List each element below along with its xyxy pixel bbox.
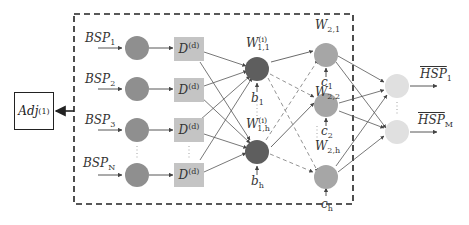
input-label-1: BSP1 [85, 32, 115, 47]
delay-label-1: D(d) [174, 42, 204, 55]
input-node-2 [125, 77, 149, 101]
hidden1-to-hidden2-edges [271, 51, 314, 147]
delay-label-3: D(d) [174, 123, 204, 136]
node-to-delay-arrows [149, 48, 173, 175]
hidden1-to-hidden2-dashed-edges [266, 60, 318, 172]
delay-boxes [174, 37, 204, 187]
hidden2-weight-label-1: W2,1 [315, 19, 340, 34]
input-label-2: BSP2 [85, 73, 115, 88]
input-label-n: BSPN [83, 157, 115, 172]
hidden1-node-h [245, 140, 269, 164]
output-node-1 [385, 74, 409, 98]
hidden1-bias-label-1: b1 [251, 92, 264, 107]
input-node-3 [125, 118, 149, 142]
input-label-3: BSP3 [85, 114, 115, 129]
hidden2-node-1 [314, 43, 338, 67]
adj-sup: (1) [38, 107, 49, 116]
delay-to-hidden1-edges [200, 52, 252, 172]
input-node-n [125, 163, 149, 187]
input-node-1 [125, 36, 149, 60]
adjacency-box: Adj(1) [14, 92, 54, 130]
hidden2-node-h [314, 165, 338, 189]
delay-label-2: D(d) [174, 83, 204, 96]
neural-network-diagram [0, 0, 469, 225]
hidden1-nodes [245, 57, 269, 164]
output-node-m [385, 120, 409, 144]
hidden1-weight-label-1: W(i)1,1 [246, 36, 270, 52]
hidden1-node-1 [245, 57, 269, 81]
input-nodes [125, 36, 149, 187]
hidden1-bias-label-h: bh [251, 175, 264, 190]
hidden2-weight-label-2: W2,2 [315, 86, 340, 101]
hidden2-bias-label-h: ch [321, 198, 333, 213]
output-label-1: HSP1 [420, 68, 452, 83]
hidden2-to-output-edges [336, 56, 387, 172]
hidden2-weight-label-h: W2,h [315, 140, 340, 155]
adj-label: Adj [18, 104, 38, 118]
delay-label-n: D(d) [174, 168, 204, 181]
hidden1-weight-label-h: W(i)1,h [246, 117, 270, 133]
output-label-m: HSPM [418, 114, 453, 129]
hidden2-nodes [314, 43, 338, 189]
